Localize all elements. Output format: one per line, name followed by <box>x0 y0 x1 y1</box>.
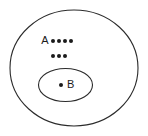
outer-set-ellipse <box>10 10 138 126</box>
set-diagram-figure: A B <box>0 0 148 136</box>
element-dots-row-1 <box>51 39 73 43</box>
element-dot <box>57 54 61 58</box>
element-dot <box>63 54 67 58</box>
inner-set-ellipse <box>39 69 93 102</box>
set-label-b: B <box>67 78 74 90</box>
element-dot <box>63 39 67 43</box>
element-dot <box>57 39 61 43</box>
venn-diagram-canvas: A B <box>0 0 148 136</box>
element-dot <box>69 39 73 43</box>
element-dot <box>51 39 55 43</box>
element-dot <box>51 54 55 58</box>
element-dots-row-2 <box>51 54 67 58</box>
set-label-a: A <box>41 34 49 46</box>
element-dot-b <box>59 83 63 87</box>
